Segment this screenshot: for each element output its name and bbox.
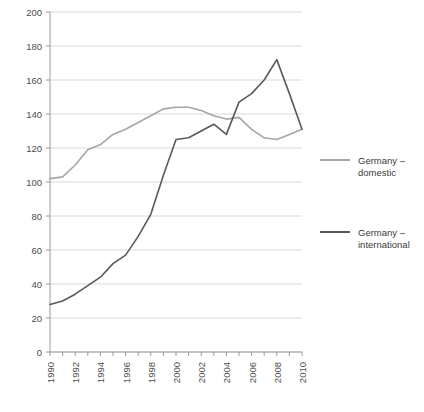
x-axis-tick-label: 2006	[247, 362, 258, 383]
x-axis-tick-label: 2002	[196, 362, 207, 383]
gridlines	[46, 12, 302, 352]
y-axis-tick-label: 0	[37, 347, 42, 358]
y-axis-tick-label: 100	[26, 177, 42, 188]
x-axis-tick-labels: 1990199219941996199820002002200420062008…	[45, 362, 308, 383]
x-axis-tick-label: 1996	[121, 362, 132, 383]
x-axis-tick-label: 2008	[272, 362, 283, 383]
x-axis-tick-label: 1990	[45, 362, 56, 383]
legend-label-1: Germany –	[358, 227, 406, 238]
x-axis-tick-label: 1998	[146, 362, 157, 383]
x-axis-tick-label: 2010	[297, 362, 308, 383]
series-line-0	[50, 107, 302, 178]
y-axis-tick-label: 180	[26, 41, 42, 52]
legend-label-0: Germany –	[358, 155, 406, 166]
y-axis-tick-label: 80	[31, 211, 42, 222]
line-chart: 020406080100120140160180200 199019921994…	[0, 0, 424, 412]
y-axis-tick-label: 140	[26, 109, 42, 120]
y-axis-tick-labels: 020406080100120140160180200	[26, 7, 42, 358]
x-axis-tick-label: 1992	[70, 362, 81, 383]
legend-label-1-line2: international	[358, 239, 410, 250]
chart-canvas: 020406080100120140160180200 199019921994…	[0, 0, 424, 412]
legend: Germany –domesticGermany –international	[320, 155, 410, 250]
y-axis-tick-label: 20	[31, 313, 42, 324]
x-axis-ticks	[50, 352, 302, 356]
y-axis-tick-label: 160	[26, 75, 42, 86]
y-axis-tick-label: 60	[31, 245, 42, 256]
y-axis-tick-label: 40	[31, 279, 42, 290]
y-axis-tick-label: 120	[26, 143, 42, 154]
x-axis-tick-label: 2004	[221, 362, 232, 383]
y-axis-tick-label: 200	[26, 7, 42, 18]
x-axis-tick-label: 2000	[171, 362, 182, 383]
x-axis-tick-label: 1994	[95, 362, 106, 383]
legend-label-0-line2: domestic	[358, 167, 396, 178]
